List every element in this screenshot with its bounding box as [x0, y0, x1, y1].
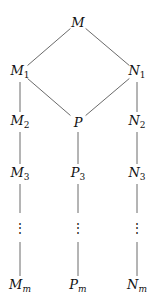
- node-Mm: Mm: [9, 278, 31, 294]
- node-P: P: [74, 116, 83, 129]
- ellipsis-icon: ⋮: [14, 222, 26, 234]
- node-N1: N1: [128, 64, 145, 80]
- node-M: M: [71, 16, 84, 29]
- ellipsis-icon: ⋮: [72, 222, 84, 234]
- node-N2: N2: [128, 114, 145, 130]
- node-Pm: Pm: [69, 278, 86, 294]
- lattice-diagram: MM1N1M2PN2M3P3N3MmPmNm⋮⋮⋮: [0, 0, 153, 302]
- edge: [28, 29, 71, 66]
- ellipsis-icon: ⋮: [131, 222, 143, 234]
- node-M3: M3: [10, 166, 29, 182]
- node-M2: M2: [10, 114, 29, 130]
- node-Nm: Nm: [127, 278, 147, 294]
- node-P3: P3: [71, 166, 85, 182]
- edge: [28, 79, 71, 116]
- node-N3: N3: [128, 166, 145, 182]
- diagram-edges: [0, 0, 153, 302]
- edge: [86, 78, 130, 115]
- edge: [86, 28, 130, 65]
- node-M1: M1: [10, 64, 29, 80]
